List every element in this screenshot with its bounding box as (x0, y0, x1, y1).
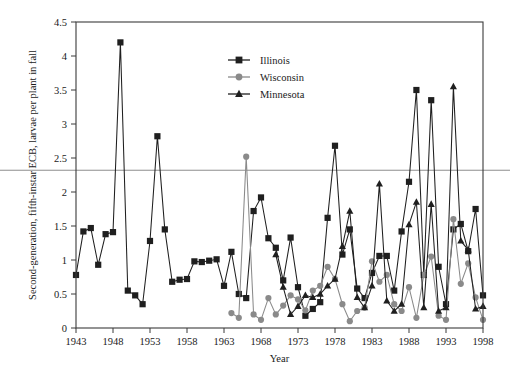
data-point (413, 87, 419, 93)
data-point (243, 154, 249, 160)
data-point (117, 39, 123, 45)
y-tick-label: 0.5 (54, 289, 67, 300)
data-point (228, 310, 234, 316)
data-point (258, 194, 264, 200)
data-point (273, 311, 279, 317)
data-point (458, 281, 464, 287)
y-tick-label: 0 (62, 323, 67, 334)
data-point (317, 283, 323, 289)
data-point (191, 258, 197, 264)
x-tick-label: 1948 (103, 336, 124, 347)
x-tick-label: 1973 (288, 336, 309, 347)
data-point (458, 221, 464, 227)
data-point (325, 215, 331, 221)
data-point (88, 225, 94, 231)
data-point (310, 288, 316, 294)
data-point (243, 295, 249, 301)
data-point (399, 228, 405, 234)
data-point (384, 253, 390, 259)
y-tick-label: 4 (62, 51, 68, 62)
legend-label-illinois: Illinois (260, 55, 290, 66)
y-tick-label: 4.5 (54, 17, 67, 28)
data-point (280, 302, 286, 308)
legend-marker-circle (236, 74, 243, 81)
data-point (428, 97, 434, 103)
data-point (125, 288, 131, 294)
legend-label-minnesota: Minnesota (260, 89, 305, 100)
data-point (251, 208, 257, 214)
data-point (265, 295, 271, 301)
data-point (428, 254, 434, 260)
data-point (221, 283, 227, 289)
x-tick-label: 1983 (362, 336, 383, 347)
data-point (302, 313, 308, 319)
data-point (154, 133, 160, 139)
data-point (317, 299, 323, 305)
data-point (95, 262, 101, 268)
data-point (443, 317, 449, 323)
data-point (236, 291, 242, 297)
y-tick-label: 1 (62, 255, 67, 266)
data-point (391, 288, 397, 294)
data-point (169, 279, 175, 285)
data-point (184, 276, 190, 282)
data-point (147, 238, 153, 244)
legend-marker-square (236, 57, 243, 64)
y-tick-label: 1.5 (54, 221, 67, 232)
data-point (376, 253, 382, 259)
data-point (199, 259, 205, 265)
data-point (354, 308, 360, 314)
y-tick-label: 3.5 (54, 85, 67, 96)
data-point (339, 301, 345, 307)
y-tick-label: 3 (62, 119, 67, 130)
y-axis-title: Second-generation, fifth-instar ECB, lar… (27, 50, 38, 300)
data-point (450, 226, 456, 232)
y-tick-label: 2.5 (54, 153, 67, 164)
data-point (325, 264, 331, 270)
x-tick-label: 1988 (399, 336, 420, 347)
data-point (206, 258, 212, 264)
chart-figure: 00.511.522.533.544.5 1943194819531958196… (0, 0, 510, 382)
data-point (413, 315, 419, 321)
legend-label-wisconsin: Wisconsin (260, 72, 305, 83)
data-point (251, 311, 257, 317)
data-point (406, 179, 412, 185)
x-tick-label: 1943 (66, 336, 87, 347)
data-point (473, 206, 479, 212)
data-point (406, 284, 412, 290)
data-point (310, 306, 316, 312)
data-point (273, 245, 279, 251)
data-point (265, 235, 271, 241)
x-tick-label: 1968 (251, 336, 272, 347)
data-point (162, 226, 168, 232)
data-point (140, 301, 146, 307)
data-point (258, 317, 264, 323)
data-point (132, 292, 138, 298)
x-tick-label: 1993 (436, 336, 457, 347)
data-point (376, 279, 382, 285)
data-point (228, 249, 234, 255)
y-tick-label: 2 (62, 187, 67, 198)
data-point (295, 296, 301, 302)
data-point (391, 301, 397, 307)
x-tick-label: 1953 (140, 336, 161, 347)
data-point (450, 216, 456, 222)
data-point (302, 307, 308, 313)
x-tick-label: 1998 (473, 336, 494, 347)
data-point (288, 234, 294, 240)
data-point (110, 229, 116, 235)
data-point (354, 285, 360, 291)
data-point (177, 277, 183, 283)
x-tick-label: 1963 (214, 336, 235, 347)
data-point (332, 143, 338, 149)
x-axis-title: Year (270, 353, 290, 364)
data-point (436, 264, 442, 270)
data-point (236, 315, 242, 321)
data-point (295, 284, 301, 290)
data-point (103, 231, 109, 237)
data-point (288, 292, 294, 298)
x-tick-label: 1978 (325, 336, 346, 347)
data-point (347, 318, 353, 324)
data-point (80, 228, 86, 234)
ecb-larvae-line-chart: 00.511.522.533.544.5 1943194819531958196… (0, 0, 510, 382)
